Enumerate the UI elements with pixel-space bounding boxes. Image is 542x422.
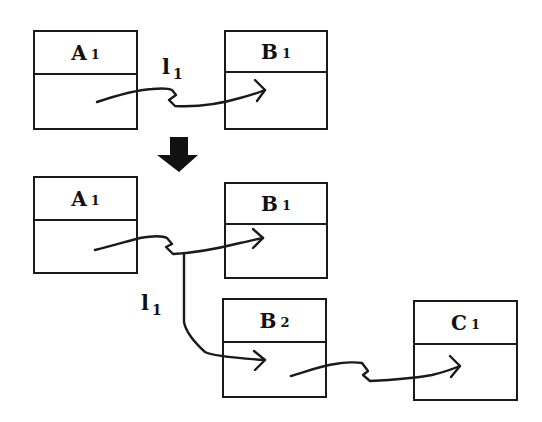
- bottom-pointer-link-b2-c1: [291, 362, 460, 381]
- pointer-links: [0, 0, 542, 422]
- arrowhead-icon: [255, 80, 265, 101]
- bottom-pointer-branch-to-b2: [184, 253, 265, 360]
- down-arrow-icon: [157, 137, 198, 172]
- bottom-pointer-link-a1-b1: [95, 237, 263, 255]
- arrowhead-icon: [450, 356, 460, 377]
- top-pointer-link: [97, 88, 265, 106]
